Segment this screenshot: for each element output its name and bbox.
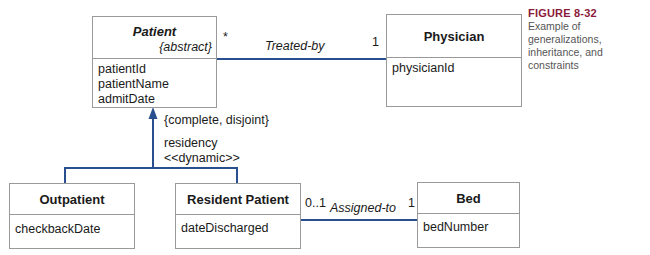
class-header: Patient {abstract} [93,17,216,59]
attribute-list: patientId patientName admitDate [98,62,214,107]
class-name: Patient [93,24,216,39]
abstract-stereotype: {abstract} [159,40,212,54]
class-outpatient[interactable]: Outpatient checkbackDate [9,183,135,249]
assigned-to-target-multiplicity: 1 [408,196,415,210]
treated-by-label: Treated-by [265,39,325,53]
class-name: Outpatient [10,192,134,207]
class-name: Resident Patient [176,192,300,207]
attribute: physicianId [392,61,519,76]
attribute: bedNumber [423,220,517,235]
attribute: patientId [98,62,214,77]
class-header: Bed [418,183,519,214]
class-name: Bed [418,191,519,206]
generalization-arrowhead-icon [149,107,158,119]
generalization-constraint: {complete, disjoint} [164,113,269,127]
attribute-list: bedNumber [423,220,517,235]
attribute: dateDischarged [181,221,298,236]
class-physician[interactable]: Physician physicianId [386,14,522,107]
generalization-stereotype: <<dynamic>> [164,151,240,165]
attribute: patientName [98,77,214,92]
figure-number: FIGURE 8-32 [528,7,597,19]
treated-by-source-multiplicity: * [223,30,228,44]
treated-by-target-multiplicity: 1 [372,35,379,49]
class-header: Physician [387,15,521,58]
class-resident-patient[interactable]: Resident Patient dateDischarged [175,183,301,249]
class-name: Physician [387,29,521,44]
figure-caption: Example of generalizations, inheritance,… [528,20,650,72]
class-patient[interactable]: Patient {abstract} patientId patientName… [92,16,217,108]
assigned-to-source-multiplicity: 0..1 [305,196,326,210]
class-header: Outpatient [10,184,134,215]
attribute: checkbackDate [15,222,132,237]
class-header: Resident Patient [176,184,300,215]
attribute: admitDate [98,92,214,107]
attribute-list: dateDischarged [181,221,298,236]
generalization-discriminator: residency [164,136,218,150]
attribute-list: physicianId [392,61,519,76]
assigned-to-label: Assigned-to [330,201,396,215]
attribute-list: checkbackDate [15,222,132,237]
class-bed[interactable]: Bed bedNumber [417,182,520,248]
